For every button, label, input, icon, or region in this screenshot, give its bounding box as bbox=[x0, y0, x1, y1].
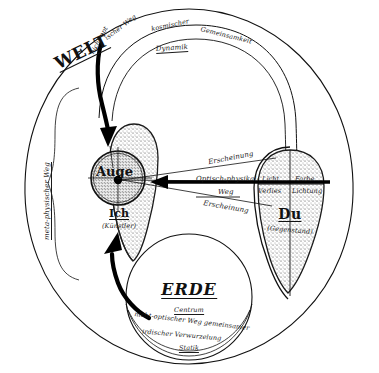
earth-center-label: Centrum bbox=[174, 307, 204, 315]
self-paren-label: (Künstler) bbox=[102, 223, 136, 230]
eye-label: Auge bbox=[96, 165, 133, 178]
du-color-label: Farbe bbox=[295, 176, 315, 183]
du-light-label: Licht bbox=[262, 176, 279, 183]
du-verlies-label: Verlies bbox=[258, 188, 281, 195]
metaphysical-path-bracket bbox=[48, 88, 79, 280]
optical-path-label-line1: Optisch-physikal- bbox=[196, 176, 259, 183]
optical-path-label-line2: Weg bbox=[218, 189, 234, 196]
metaphysical-path-label: meta-physischer Weg bbox=[44, 162, 52, 240]
other-label: Du bbox=[278, 207, 301, 222]
diagram-canvas: WELT nicht-opt ischer Weg kosmischer Gem… bbox=[0, 0, 379, 373]
self-label: Ich bbox=[109, 208, 129, 220]
earth-path-label-line3: Statik bbox=[179, 345, 199, 353]
earth-title: ERDE bbox=[161, 282, 217, 299]
other-teardrop-shape bbox=[254, 147, 324, 299]
du-lichtung-label: Lichtung bbox=[292, 188, 322, 195]
